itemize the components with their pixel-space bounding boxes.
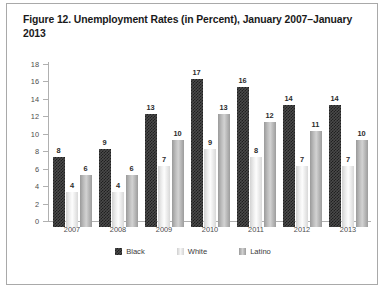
white-gradient-swatch [177,248,184,255]
bar-group: 147112012 [279,62,325,227]
bar-black-2007: 8 [53,157,65,227]
y-axis-label: 0 [21,217,39,226]
bar-black-2013: 14 [329,105,341,227]
bar-black-2011: 16 [237,87,249,227]
x-axis-label-2008: 2008 [95,225,141,234]
bar-black-2008: 9 [99,149,111,228]
bar-value-label: 12 [265,111,273,120]
figure-title: Figure 12. Unemployment Rates (in Percen… [23,13,353,42]
bar-value-label: 13 [219,103,227,112]
x-axis-label-2009: 2009 [141,225,187,234]
bar-value-label: 11 [312,120,320,129]
y-axis-tick [43,186,48,187]
y-axis-tick [43,221,48,222]
bar-value-label: 7 [346,155,350,164]
bar-fill [296,166,308,227]
latino-gradient-swatch [239,248,246,255]
bar-fill [204,149,216,228]
bar-fill [356,140,368,227]
bar-latino-2007: 6 [80,175,92,227]
y-axis-tick [43,81,48,82]
bar-fill [283,105,295,227]
y-axis-label: 6 [21,164,39,173]
y-axis-label: 10 [21,129,39,138]
y-axis-tick [43,204,48,205]
figure-container: Figure 12. Unemployment Rates (in Percen… [6,3,378,285]
bar-group: 179132010 [187,62,233,227]
bar-latino-2008: 6 [126,175,138,227]
bar-fill [158,166,170,227]
bar-value-label: 9 [208,138,212,147]
bar-group: 168122011 [233,62,279,227]
bar-fill [172,140,184,227]
bar-value-label: 7 [300,155,304,164]
bar-value-label: 8 [56,146,60,155]
bar-fill [145,114,157,227]
black-hatch-swatch [115,248,122,255]
bar-value-label: 16 [238,76,246,85]
bar-fill [99,149,111,228]
bar-value-label: 8 [254,146,258,155]
y-axis-tick [43,64,48,65]
bar-latino-2013: 10 [356,140,368,227]
bar-white-2013: 7 [342,166,354,227]
x-axis-label-2012: 2012 [279,225,325,234]
bar-value-label: 10 [173,129,181,138]
bar-value-label: 13 [146,103,154,112]
bar-value-label: 14 [330,94,338,103]
bar-value-label: 10 [357,129,365,138]
x-axis-label-2011: 2011 [233,225,279,234]
bar-fill [264,122,276,227]
bar-fill [342,166,354,227]
bar-latino-2009: 10 [172,140,184,227]
y-axis-tick [43,99,48,100]
bar-white-2012: 7 [296,166,308,227]
bar-group: 9462008 [95,62,141,227]
bar-value-label: 6 [129,164,133,173]
bar-latino-2011: 12 [264,122,276,227]
y-axis-tick [43,134,48,135]
y-axis-label: 14 [21,94,39,103]
bar-group: 137102009 [141,62,187,227]
legend-item-white[interactable]: White [177,247,207,256]
y-axis-tick [43,169,48,170]
bar-white-2010: 9 [204,149,216,228]
y-axis-label: 2 [21,199,39,208]
bar-white-2007: 4 [66,192,78,227]
chart-legend: BlackWhiteLatino [7,247,378,256]
y-axis-label: 18 [21,60,39,69]
legend-item-black[interactable]: Black [115,247,145,256]
bar-black-2009: 13 [145,114,157,227]
bar-latino-2010: 13 [218,114,230,227]
y-axis-tick [43,116,48,117]
bar-white-2008: 4 [112,192,124,227]
bar-value-label: 6 [83,164,87,173]
bar-value-label: 7 [162,155,166,164]
bar-value-label: 4 [70,181,74,190]
bar-value-label: 4 [116,181,120,190]
bar-value-label: 9 [102,138,106,147]
x-axis-label-2007: 2007 [49,225,95,234]
legend-item-latino[interactable]: Latino [239,247,271,256]
bar-value-label: 17 [192,68,200,77]
bar-fill [80,175,92,227]
bar-group: 147102013 [325,62,371,227]
y-axis-label: 4 [21,182,39,191]
y-axis-tick [43,151,48,152]
bar-fill [310,131,322,227]
bar-group: 8462007 [49,62,95,227]
bar-fill [53,157,65,227]
bar-latino-2012: 11 [310,131,322,227]
y-axis-label: 8 [21,147,39,156]
y-axis-label: 16 [21,77,39,86]
bar-black-2010: 17 [191,79,203,227]
bar-white-2011: 8 [250,157,262,227]
legend-label: White [188,247,207,256]
bar-black-2012: 14 [283,105,295,227]
bar-fill [250,157,262,227]
bar-fill [112,192,124,227]
bar-white-2009: 7 [158,166,170,227]
bar-fill [66,192,78,227]
bar-fill [218,114,230,227]
bar-fill [237,87,249,227]
